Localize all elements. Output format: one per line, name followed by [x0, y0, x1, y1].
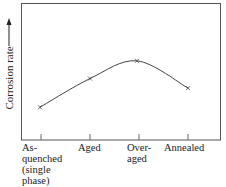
x-label-annealed: Annealed	[164, 142, 204, 153]
x-label-over-aged: Over- aged	[127, 142, 151, 164]
plot-frame	[22, 4, 221, 141]
x-ticks	[41, 134, 188, 140]
y-axis-label: Corrosion rate	[1, 15, 17, 140]
y-axis-label-text: Corrosion rate	[3, 46, 15, 109]
data-line	[40, 61, 188, 108]
x-label-as-quenched: As- quenched (single phase)	[22, 142, 62, 186]
x-label-aged: Aged	[78, 142, 101, 153]
